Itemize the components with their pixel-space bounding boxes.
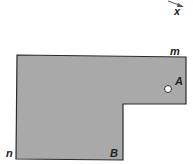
corner-label-m: m: [170, 46, 180, 57]
l-shaped-plate: [16, 55, 186, 160]
point-label-a: A: [175, 76, 183, 87]
axis-label-x: x: [174, 6, 180, 17]
diagram-canvas: [0, 0, 193, 164]
corner-label-n: n: [6, 148, 13, 159]
point-label-b: B: [110, 148, 118, 159]
hole-a: [165, 86, 172, 93]
